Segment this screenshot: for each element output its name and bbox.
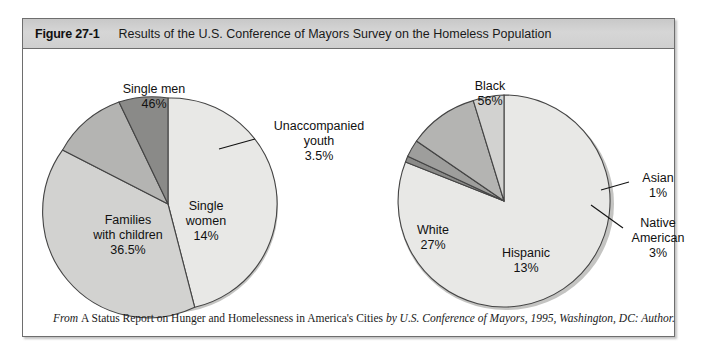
label-black: Black: [475, 79, 506, 93]
label-unaccompanied-youth: Unaccompanied: [274, 119, 364, 133]
label-families: Families: [105, 213, 152, 227]
label-families-pct: 36.5%: [110, 243, 145, 257]
label-hispanic-pct: 13%: [513, 261, 538, 275]
label-black-pct: 56%: [477, 94, 502, 108]
figure-number: Figure 27-1: [35, 27, 100, 41]
source-from: From: [53, 312, 81, 324]
charts-area: Single men 46% Families with children 36…: [23, 50, 674, 305]
label-families-line2: with children: [92, 228, 163, 242]
figure-source-citation: From A Status Report on Hunger and Homel…: [53, 312, 653, 324]
label-asian: Asian: [642, 171, 673, 185]
figure-header-bar: Figure 27-1 Results of the U.S. Conferen…: [23, 19, 674, 49]
label-single-women-pct: 14%: [193, 229, 218, 243]
label-white-pct: 27%: [420, 238, 445, 252]
label-white: White: [417, 223, 449, 237]
figure-frame: Figure 27-1 Results of the U.S. Conferen…: [22, 18, 675, 337]
label-single-men: Single men: [123, 82, 186, 96]
label-unaccompanied-youth-pct: 3.5%: [305, 149, 334, 163]
label-asian-pct: 1%: [649, 186, 667, 200]
pie-chart-race-ethnicity: Black 56% White 27% Hispanic 13% Asian 1…: [383, 50, 713, 300]
label-single-women: Single: [189, 199, 224, 213]
label-native-american-pct: 3%: [649, 246, 667, 260]
source-title: A Status Report on Hunger and Homelessne…: [81, 312, 386, 324]
label-single-women-line2: women: [185, 214, 226, 228]
label-single-men-pct: 46%: [141, 97, 166, 111]
label-hispanic: Hispanic: [502, 246, 550, 260]
figure-title: Results of the U.S. Conference of Mayors…: [119, 27, 552, 41]
label-native-american-line2: American: [632, 231, 685, 245]
pie-chart-household-type: Single men 46% Families with children 36…: [23, 50, 353, 300]
label-native-american: Native: [640, 216, 675, 230]
source-publisher: by U.S. Conference of Mayors, 1995, Wash…: [386, 312, 675, 324]
label-unaccompanied-youth-line2: youth: [304, 134, 335, 148]
